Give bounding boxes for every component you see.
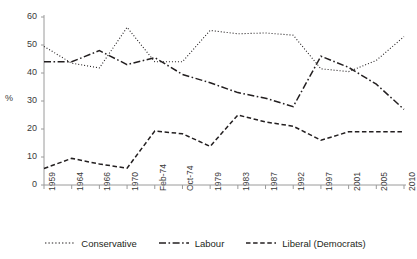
legend-line-swatch [246,238,276,248]
legend-label: Labour [195,238,225,249]
legend-item[interactable]: Conservative [45,238,136,249]
legend-label: Liberal (Democrats) [282,238,365,249]
legend-label: Conservative [81,238,136,249]
series-line [44,51,404,110]
legend-line-swatch [159,238,189,248]
series-line [44,27,404,71]
series-line [44,115,404,168]
legend-line-swatch [45,238,75,248]
data-series-group [44,27,404,168]
legend-item[interactable]: Labour [159,238,225,249]
chart-legend: ConservativeLabourLiberal (Democrats) [0,232,411,254]
legend-item[interactable]: Liberal (Democrats) [246,238,365,249]
